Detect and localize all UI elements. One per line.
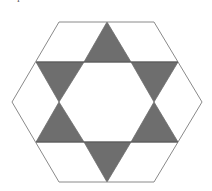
shaded-triangles [36,22,178,182]
shaded-triangle-lower-right [131,102,178,142]
hexagram-figure [0,0,212,191]
shaded-triangle-upper-left [36,62,84,102]
shaded-triangle-top [84,22,131,62]
shaded-triangle-upper-right [131,62,178,102]
shaded-triangle-lower-left [36,102,84,142]
shaded-triangle-bottom [84,142,131,182]
